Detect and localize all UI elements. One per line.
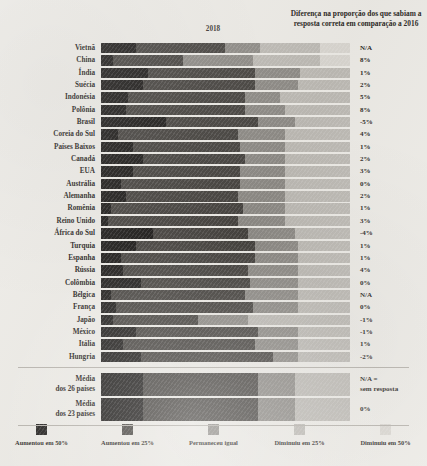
stacked-bar-chart: VietnãN/AChina8%Índia1%Suécia2%Indonésia…: [0, 42, 427, 363]
bar-segment-permaneceu-igual: [240, 179, 285, 189]
bar-segment-diminuiu-em-25: [285, 129, 350, 139]
country-label: Indonésia: [0, 91, 101, 103]
stacked-bar: [101, 105, 350, 115]
chart-row: Indonésia5%: [0, 91, 427, 103]
difference-value: -5%: [350, 116, 427, 128]
difference-value: 4%: [350, 128, 427, 140]
chart-row: Países Baixos1%: [0, 141, 427, 153]
bar-segment-aumentou-em-50: [101, 228, 153, 238]
chart-row: EUA3%: [0, 165, 427, 177]
bar-segment-aumentou-em-25: [116, 302, 253, 312]
stacked-bar: [101, 203, 350, 213]
bar-segment-permaneceu-igual: [245, 105, 285, 115]
bar-segment-diminuiu-em-25: [298, 290, 350, 300]
country-label: Romênia: [0, 202, 101, 214]
bar-segment-permaneceu-igual: [198, 315, 248, 325]
bar-segment-aumentou-em-25: [126, 105, 246, 115]
bar-segment-aumentou-em-25: [118, 129, 238, 139]
bar-segment-permaneceu-igual: [258, 117, 295, 127]
bar-segment-aumentou-em-25: [126, 191, 238, 201]
country-label: Itália: [0, 338, 101, 350]
country-label: Canadá: [0, 153, 101, 165]
bar-segment-aumentou-em-25: [111, 203, 243, 213]
legend-label: Permaneceu igual: [189, 439, 238, 446]
chart-row: Austrália0%: [0, 178, 427, 190]
average-difference-value: N/A =sem resposta: [350, 372, 427, 397]
chart-row: África do Sul-4%: [0, 227, 427, 239]
stacked-bar: [101, 142, 350, 152]
bar-segment-aumentou-em-25: [113, 315, 198, 325]
bar-segment-diminuiu-em-25: [298, 253, 350, 263]
bar-segment-diminuiu-em-25: [285, 179, 350, 189]
average-row: Médiados 26 paísesN/A =sem resposta: [0, 372, 427, 397]
difference-value: -1%: [350, 314, 427, 326]
bar-segment-aumentou-em-25: [133, 142, 240, 152]
country-label: Alemanha: [0, 190, 101, 202]
stacked-bar: [101, 315, 350, 325]
average-row: Médiados 23 países0%: [0, 397, 427, 422]
averages-section: Médiados 26 paísesN/A =sem respostaMédia…: [0, 372, 427, 422]
bar-segment-diminuiu-em-25: [285, 154, 350, 164]
stacked-bar: [101, 352, 350, 362]
bar-segment-aumentou-em-25: [108, 216, 237, 226]
average-difference-value: 0%: [350, 397, 427, 422]
stacked-bar: [101, 327, 350, 337]
average-label-line2: dos 26 países: [55, 385, 95, 394]
chart-row: Rússia4%: [0, 264, 427, 276]
average-label-line1: Média: [75, 400, 95, 409]
stacked-bar: [101, 117, 350, 127]
bar-segment-aumentou-em-50: [101, 216, 108, 226]
chart-row: Colômbia0%: [0, 277, 427, 289]
bar-segment-permaneceu-igual: [245, 290, 297, 300]
bar-segment-diminuiu-em-25: [298, 241, 350, 251]
difference-value: 0%: [350, 301, 427, 313]
bar-segment-diminuiu-em-25: [298, 352, 350, 362]
bar-segment-aumentou-em-25: [148, 68, 255, 78]
bar-segment-aumentou-em-50: [101, 241, 136, 251]
country-label: Colômbia: [0, 277, 101, 289]
average-stacked-bar: [101, 398, 350, 421]
bar-segment-aumentou-em-50: [101, 191, 126, 201]
bar-segment-aumentou-em-50: [101, 315, 113, 325]
chart-row: BélgicaN/A: [0, 289, 427, 301]
country-label: Rússia: [0, 264, 101, 276]
bar-segment-permaneceu-igual: [273, 352, 298, 362]
average-stacked-bar: [101, 373, 350, 396]
chart-row: Espanha1%: [0, 252, 427, 264]
bar-segment-aumentou-em-50: [101, 55, 113, 65]
bar-segment-permaneceu-igual: [255, 241, 297, 251]
chart-row: Polônia8%: [0, 104, 427, 116]
bar-segment-permaneceu-igual: [255, 253, 297, 263]
difference-value: N/A: [350, 289, 427, 301]
chart-row: VietnãN/A: [0, 42, 427, 54]
stacked-bar: [101, 302, 350, 312]
bar-segment-aumentou-em-50: [101, 179, 121, 189]
bar-segment-aumentou-em-25: [123, 339, 255, 349]
legend-label: Diminuiu em 50%: [360, 439, 410, 446]
bar-segment-aumentou-em-50: [101, 80, 143, 90]
bar-segment-permaneceu-igual: [183, 55, 253, 65]
country-label: Turquia: [0, 240, 101, 252]
bar-segment-aumentou-em-50: [101, 142, 133, 152]
bar-segment-aumentou-em-50: [101, 398, 143, 421]
chart-row: Itália1%: [0, 338, 427, 350]
bar-segment-aumentou-em-50: [101, 154, 143, 164]
chart-row: Suécia2%: [0, 79, 427, 91]
stacked-bar: [101, 166, 350, 176]
legend-item-permaneceu-igual: Permaneceu igual: [178, 424, 250, 446]
legend-label: Aumentou em 50%: [15, 439, 68, 446]
chart-row: Alemanha2%: [0, 190, 427, 202]
bar-segment-aumentou-em-25: [121, 179, 241, 189]
legend-label: Aumentou em 25%: [101, 439, 154, 446]
bar-segment-aumentou-em-25: [143, 373, 258, 396]
chart-row: Coreia do Sul4%: [0, 128, 427, 140]
country-label: China: [0, 54, 101, 66]
bar-segment-permaneceu-igual: [225, 43, 260, 53]
country-label: Reino Unido: [0, 215, 101, 227]
chart-row: Reino Unido3%: [0, 215, 427, 227]
divider-above-averages: [18, 367, 409, 368]
bar-segment-aumentou-em-25: [111, 290, 245, 300]
bar-segment-permaneceu-igual: [238, 216, 285, 226]
bar-segment-diminuiu-em-25: [260, 43, 320, 53]
difference-value: 0%: [350, 277, 427, 289]
